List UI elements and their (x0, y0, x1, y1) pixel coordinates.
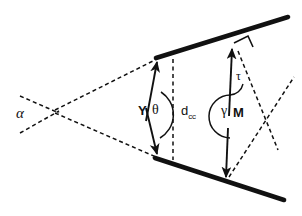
label-theta: θ (152, 103, 159, 117)
diagram-canvas: α Y θ dcc γ M τ (0, 0, 302, 216)
M-vector-upper (229, 49, 232, 116)
label-M: M (233, 106, 244, 119)
convergence-lower-line (55, 113, 156, 157)
theta-angle-arc (160, 92, 173, 138)
lower-boundary-line (155, 158, 284, 200)
diagram-geometry-svg (0, 0, 302, 216)
right-angle-marker (234, 36, 253, 47)
label-d-subscript: cc (188, 112, 196, 121)
M-vector-lower (226, 128, 228, 177)
alpha-upper-ray (20, 96, 59, 113)
upper-boundary-line (156, 17, 288, 58)
label-tau: τ (236, 70, 241, 82)
tau-angle-arc (230, 84, 243, 95)
label-alpha: α (16, 106, 24, 121)
label-d-cc: dcc (181, 104, 196, 121)
label-gamma: γ (221, 104, 227, 118)
label-Y: Y (138, 104, 147, 117)
normal-dashed-upper (238, 51, 278, 150)
alpha-lower-ray (20, 111, 59, 133)
